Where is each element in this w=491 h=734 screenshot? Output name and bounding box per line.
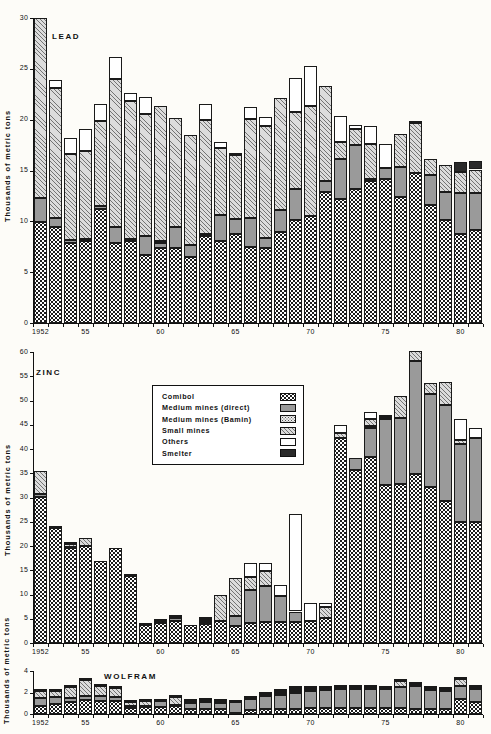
x-tick [288,715,289,718]
bar [139,624,152,643]
y-tick-label: 0 [7,319,28,326]
bar-layer [33,671,483,714]
bar [154,106,167,323]
bar [349,125,362,323]
bar-segment-others [304,603,317,620]
bar-segment-comibol [214,621,227,643]
bar-segment-small-mines [154,106,167,240]
bar-segment-smelter [409,682,422,684]
y-tick-label: 20 [7,542,28,549]
bar-segment-small-mines [34,471,47,494]
bar-segment-small-mines [79,151,92,238]
bar-segment-others [244,107,257,118]
bar-segment-comibol [64,548,77,643]
bar-segment-others [304,66,317,107]
bar-segment-small-mines [334,142,347,159]
bar [454,162,467,323]
bar-segment-small-mines [49,88,62,218]
bar [169,118,182,323]
bar-segment-comibol [244,247,257,323]
bar-segment-medium-direct [409,686,422,709]
bar-segment-smelter [214,699,227,701]
bar-segment-small-mines [139,701,152,706]
medium-bamin-swatch [280,415,296,423]
y-tick-label: 2 [7,688,28,695]
bar-segment-small-mines [409,123,422,173]
bar-segment-comibol [424,709,437,714]
x-tick [78,715,79,718]
bar-segment-comibol [154,623,167,643]
x-tick [63,644,64,647]
bar-segment-others [364,126,377,144]
bar [319,86,332,323]
x-tick-label: 1952 [27,648,55,655]
bar-segment-comibol [199,236,212,323]
y-tick-label: 40 [7,445,28,452]
bar-segment-small-mines [454,679,467,687]
bar-segment-smelter [229,700,242,702]
bar-segment-others [244,563,257,577]
bar-segment-comibol [34,497,47,643]
bar-segment-medium-direct [469,193,482,231]
bar [424,383,437,643]
bar-segment-medium-direct [64,240,77,243]
bar [469,428,482,643]
bar [259,563,272,643]
bar-segment-medium-direct [424,175,437,206]
bar [49,80,62,323]
bar-segment-others [259,117,272,126]
bar-segment-small-mines [454,172,467,193]
bar-segment-comibol [319,192,332,323]
bar-segment-comibol [199,624,212,643]
bar [214,142,227,323]
x-tick [213,644,214,647]
bar [154,700,167,714]
bar-segment-smelter [379,686,392,688]
bar-segment-medium-direct [274,210,287,231]
x-tick [138,715,139,718]
x-tick [33,715,34,718]
bar-segment-others [334,425,347,433]
bar-segment-others [124,93,137,101]
bar [169,696,182,714]
bar-segment-medium-direct [169,618,182,620]
medium-direct-swatch [280,404,296,412]
x-tick [468,324,469,327]
bar-segment-medium-direct [184,245,197,257]
x-tick-label: 55 [72,719,100,726]
bar-segment-smelter [289,686,302,688]
bar [274,585,287,643]
bar-segment-medium-direct [49,697,62,703]
bar-segment-comibol [139,625,152,643]
wolfram-plot-area: 0241952556065707580 [33,671,483,714]
bar [184,135,197,323]
bar [199,617,212,643]
bar-segment-smelter [124,700,137,702]
x-tick [33,324,34,327]
bar-segment-small-mines [79,538,92,546]
x-tick-label: 80 [447,648,475,655]
bar-segment-comibol [169,706,182,714]
bar [394,396,407,643]
x-tick [408,324,409,327]
bar-segment-comibol [79,241,92,323]
bar-segment-comibol [124,576,137,643]
bar [34,690,47,714]
bar-segment-medium-direct [214,703,227,709]
bar-segment-small-mines [94,121,107,206]
bar-segment-comibol [109,548,122,643]
bar-segment-comibol [124,241,137,323]
bar-segment-others [229,153,242,155]
bar-segment-others [379,144,392,168]
bar-segment-medium-direct [379,168,392,178]
bar-segment-small-mines [319,86,332,181]
x-tick [93,715,94,718]
x-tick [243,715,244,718]
bar-segment-comibol [319,708,332,714]
bar-segment-small-mines [94,686,107,696]
bar-segment-small-mines [274,693,287,695]
x-tick-label: 75 [372,719,400,726]
bar [229,154,242,323]
bar-segment-small-mines [334,687,347,689]
y-tick-label: 0 [7,639,28,646]
